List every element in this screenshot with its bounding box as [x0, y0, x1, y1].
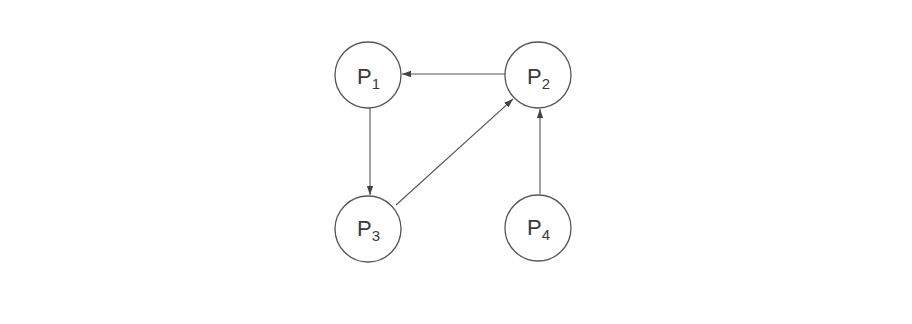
node-p3: P3: [335, 196, 401, 262]
node-p1-subscript: 1: [372, 75, 380, 92]
edge-p3-to-p2: [396, 99, 513, 205]
node-p1: P1: [335, 42, 401, 108]
node-p1-label: P: [357, 64, 372, 89]
node-p3-subscript: 3: [372, 227, 380, 244]
node-p2: P2: [505, 42, 571, 108]
node-p4: P4: [505, 195, 571, 261]
node-p3-label: P: [357, 216, 372, 241]
node-p2-subscript: 2: [542, 75, 550, 92]
wait-for-graph: P1 P2 P3 P4: [0, 0, 912, 324]
node-p2-label: P: [527, 64, 542, 89]
node-p4-subscript: 4: [542, 226, 550, 243]
node-p4-label: P: [527, 215, 542, 240]
